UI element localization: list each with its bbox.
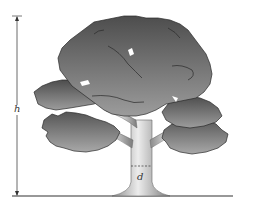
- arrow-down-icon: [15, 191, 19, 196]
- tree-diagram: h d: [0, 0, 257, 208]
- diameter-label: d: [137, 171, 143, 182]
- height-label: h: [14, 103, 20, 114]
- arrow-up-icon: [15, 16, 19, 21]
- height-dimension: h: [12, 16, 22, 196]
